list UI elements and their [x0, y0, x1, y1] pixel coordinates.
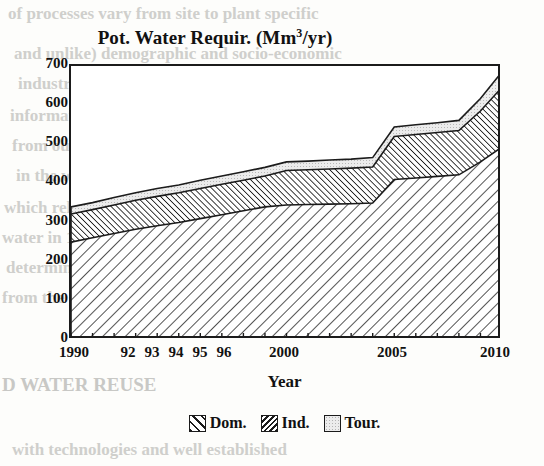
y-tick-label: 500	[20, 133, 68, 150]
legend-label-dom: Dom.	[210, 414, 247, 432]
x-tick-label: 2000	[269, 344, 299, 361]
legend-swatch-ind-icon	[261, 415, 278, 432]
y-tick-label: 600	[20, 94, 68, 111]
plot-svg	[69, 64, 500, 338]
x-tick-label: 95	[193, 344, 208, 361]
legend-swatch-tour-icon	[324, 415, 341, 432]
chart-title-tail: /yr)	[302, 27, 332, 48]
x-tick-label: 2010	[480, 344, 510, 361]
legend-item-ind: Ind.	[261, 414, 310, 432]
x-tick-label: 94	[169, 344, 184, 361]
legend-swatch-dom-icon	[189, 415, 206, 432]
y-tick-label: 400	[20, 172, 68, 189]
x-tick-label: 93	[145, 344, 160, 361]
x-tick-label: 2005	[377, 344, 407, 361]
plot-area	[69, 64, 500, 338]
chart-legend: Dom. Ind. Tour.	[69, 414, 500, 432]
y-tick-label: 700	[20, 55, 68, 72]
x-tick-label: 1990	[59, 344, 89, 361]
legend-label-ind: Ind.	[282, 414, 310, 432]
y-tick-label: 100	[20, 290, 68, 307]
legend-item-dom: Dom.	[189, 414, 247, 432]
x-tick-label: 92	[121, 344, 136, 361]
x-axis-title: Year	[69, 372, 500, 392]
legend-label-tour: Tour.	[345, 414, 381, 432]
y-tick-label: 300	[20, 212, 68, 229]
legend-item-tour: Tour.	[324, 414, 381, 432]
chart-title-main: Pot. Water Requir. (Mm	[98, 27, 297, 48]
x-tick-label: 96	[217, 344, 232, 361]
x-axis-labels: 1990 92 93 94 95 96 2000 2005 2010	[0, 344, 544, 366]
y-tick-label: 200	[20, 251, 68, 268]
y-axis-labels: 700 600 500 400 300 200 100 0	[14, 0, 68, 466]
area-series-group	[71, 72, 500, 338]
stacked-area-chart: Pot. Water Requir. (Mm3/yr) 700 600 500 …	[0, 0, 544, 466]
